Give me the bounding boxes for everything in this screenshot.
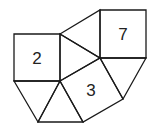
triangle-4	[38, 81, 83, 122]
squares-group: 273	[14, 10, 146, 122]
square-label: 2	[32, 49, 41, 68]
square-label: 7	[118, 25, 127, 44]
triangle-0	[60, 10, 100, 58]
triangle-2	[100, 58, 146, 99]
triangle-1	[60, 34, 100, 81]
square-label: 3	[86, 81, 95, 100]
tiling-diagram: 273	[0, 0, 155, 137]
triangle-3	[14, 81, 60, 122]
